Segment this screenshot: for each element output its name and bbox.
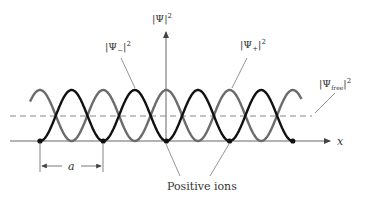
ions-leader-right xyxy=(210,144,229,176)
psi-plus-label: |Ψ+|2 xyxy=(240,38,266,53)
band-gap-diagram: x |Ψ|2 |Ψ−|2 |Ψ+|2 |Ψfree|2 a Positive i… xyxy=(0,0,365,201)
ion-dot xyxy=(227,138,232,143)
psi-free-leader xyxy=(315,93,335,113)
ion-dot xyxy=(290,138,295,143)
ion-dot xyxy=(164,138,169,143)
spacing-label: a xyxy=(68,160,75,173)
ion-dot xyxy=(37,138,42,143)
ions-leader-left xyxy=(166,144,180,176)
psi-minus-leader xyxy=(121,58,135,88)
x-axis-label: x xyxy=(337,135,344,148)
psi-free-label: |Ψfree|2 xyxy=(319,77,351,91)
positive-ions-label: Positive ions xyxy=(167,180,237,193)
ion-dot xyxy=(101,138,106,143)
psi-minus-label: |Ψ−|2 xyxy=(105,40,131,55)
psi-axis-label: |Ψ|2 xyxy=(152,12,172,25)
psi-plus-leader xyxy=(232,58,247,88)
